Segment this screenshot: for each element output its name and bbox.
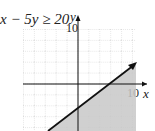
y-axis-arrow-icon	[76, 15, 81, 21]
x-axis-arrow-icon	[142, 82, 147, 87]
graph	[0, 0, 155, 131]
